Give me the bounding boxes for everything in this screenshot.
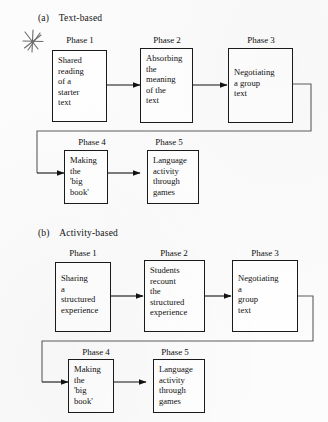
diagram-a-title-text: Text-based <box>59 13 103 23</box>
label-b-phase-5: Phase 5 <box>146 347 204 357</box>
box-b-phase-4-line-1: Making <box>74 364 109 375</box>
box-b-phase-1-line-4: experience <box>61 305 106 316</box>
box-b-phase-4-line-3: 'big <box>74 385 109 396</box>
diagram-b-title-text: Activity-based <box>59 228 118 238</box>
box-a-phase-3-line-2: a group <box>234 78 288 89</box>
box-a-phase-1-line-4: starter <box>58 87 102 98</box>
label-b-phase-4: Phase 4 <box>68 347 124 357</box>
box-a-phase-5-line-3: through <box>153 176 194 187</box>
label-a-phase-5: Phase 5 <box>140 137 198 147</box>
box-a-phase-4-line-1: Making <box>70 155 103 166</box>
box-b-phase-1[interactable]: Sharing a structured experience <box>55 262 111 332</box>
box-a-phase-2[interactable]: Absorbing the meaning of the text <box>140 48 193 123</box>
box-b-phase-4-line-4: book' <box>74 396 109 407</box>
box-b-phase-3-line-3: group <box>238 294 293 305</box>
box-b-phase-1-line-3: structured <box>61 294 106 305</box>
diagram-a-title: (a) Text-based <box>38 13 102 23</box>
box-b-phase-3-line-4: text <box>238 305 293 316</box>
box-b-phase-2-line-5: experience <box>150 307 200 318</box>
box-a-phase-2-line-2: the <box>146 64 188 75</box>
diagram-b-index: (b) <box>38 228 50 238</box>
box-b-phase-2-line-3: the <box>150 286 200 297</box>
label-a-phase-4: Phase 4 <box>64 137 120 147</box>
box-a-phase-4[interactable]: Making the 'big book' <box>64 150 108 204</box>
box-a-phase-2-line-5: text <box>146 95 188 106</box>
box-a-phase-1[interactable]: Shared reading of a starter text <box>52 50 107 122</box>
box-a-phase-2-line-3: meaning <box>146 74 188 85</box>
box-b-phase-5-line-3: through <box>159 385 200 396</box>
box-b-phase-3[interactable]: Negotiating a group text <box>232 260 298 332</box>
hand-drawn-star-icon <box>21 29 47 55</box>
box-a-phase-2-line-4: of the <box>146 85 188 96</box>
diagram-page: (a) Text-based Phase 1 Phase 2 Phase 3 S… <box>0 0 328 422</box>
box-a-phase-4-line-2: the <box>70 166 103 177</box>
box-a-phase-5[interactable]: Language activity through games <box>147 150 199 204</box>
box-b-phase-5-line-1: Language <box>159 364 200 375</box>
box-a-phase-3-line-3: text <box>234 88 288 99</box>
box-a-phase-4-line-3: 'big <box>70 176 103 187</box>
label-b-phase-2: Phase 2 <box>143 248 205 258</box>
box-b-phase-5[interactable]: Language activity through games <box>153 359 205 413</box>
box-a-phase-1-line-1: Shared <box>58 55 102 66</box>
box-b-phase-5-line-4: games <box>159 396 200 407</box>
box-b-phase-2-line-1: Students <box>150 265 200 276</box>
box-b-phase-3-line-1: Negotiating <box>238 273 293 284</box>
box-b-phase-4[interactable]: Making the 'big book' <box>68 359 114 413</box>
box-a-phase-1-line-5: text <box>58 97 102 108</box>
box-b-phase-2-line-2: recount <box>150 276 200 287</box>
box-b-phase-1-line-2: a <box>61 284 106 295</box>
diagram-a-index: (a) <box>38 13 49 23</box>
box-b-phase-1-line-1: Sharing <box>61 273 106 284</box>
box-a-phase-5-line-1: Language <box>153 155 194 166</box>
box-b-phase-4-line-2: the <box>74 375 109 386</box>
box-a-phase-2-line-1: Absorbing <box>146 53 188 64</box>
box-a-phase-5-line-4: games <box>153 187 194 198</box>
label-b-phase-3: Phase 3 <box>232 248 298 258</box>
box-a-phase-1-line-2: reading <box>58 66 102 77</box>
box-b-phase-2[interactable]: Students recount the structured experien… <box>144 260 205 332</box>
box-b-phase-3-line-2: a <box>238 284 293 295</box>
box-b-phase-5-line-2: activity <box>159 375 200 386</box>
label-a-phase-2: Phase 2 <box>139 35 195 45</box>
label-a-phase-3: Phase 3 <box>228 35 294 45</box>
box-a-phase-5-line-2: activity <box>153 166 194 177</box>
diagram-b-title: (b) Activity-based <box>38 228 118 238</box>
box-b-phase-2-line-4: structured <box>150 297 200 308</box>
box-a-phase-4-line-4: book' <box>70 187 103 198</box>
label-a-phase-1: Phase 1 <box>52 35 108 45</box>
label-b-phase-1: Phase 1 <box>54 248 112 258</box>
box-a-phase-1-line-3: of a <box>58 76 102 87</box>
box-a-phase-3[interactable]: Negotiating a group text <box>228 48 293 123</box>
box-a-phase-3-line-1: Negotiating <box>234 67 288 78</box>
